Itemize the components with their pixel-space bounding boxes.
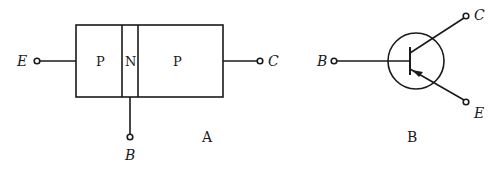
base-terminal — [127, 134, 133, 140]
region-n: N — [125, 54, 136, 69]
pnp-transistor-figure: E P N P C B A B C E B — [0, 0, 498, 169]
caption-a: A — [201, 129, 213, 145]
base-terminal — [331, 58, 337, 64]
collector-terminal — [463, 13, 469, 19]
base-label: B — [124, 147, 135, 163]
collector-lead — [410, 18, 464, 53]
schematic-collector-label: C — [474, 7, 485, 23]
schematic-base-label: B — [316, 53, 327, 69]
collector-terminal — [257, 58, 263, 64]
emitter-label: E — [16, 53, 27, 69]
pnp-block-diagram — [34, 25, 263, 140]
emitter-terminal — [34, 58, 40, 64]
region-p-left: P — [96, 54, 105, 69]
collector-label: C — [268, 53, 279, 69]
region-p-right: P — [173, 54, 182, 69]
pnp-schematic-symbol — [331, 13, 469, 105]
caption-b: B — [407, 129, 417, 145]
emitter-terminal — [463, 99, 469, 105]
schematic-emitter-label: E — [473, 105, 484, 121]
